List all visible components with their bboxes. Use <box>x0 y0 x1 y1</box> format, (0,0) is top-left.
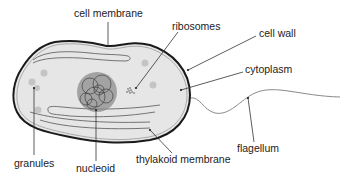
granule <box>41 70 48 77</box>
granule <box>142 60 149 67</box>
label-cytoplasm: cytoplasm <box>245 63 293 75</box>
label-nucleoid: nucleoid <box>76 162 115 174</box>
flagellum-shape <box>190 90 340 114</box>
label-thylakoid-membrane: thylakoid membrane <box>136 153 231 165</box>
label-granules: granules <box>14 157 54 169</box>
granule <box>34 85 40 91</box>
label-cell-wall: cell wall <box>259 27 296 39</box>
granule <box>35 107 42 114</box>
granule <box>29 79 36 86</box>
leader-cytoplasm <box>181 72 243 90</box>
prokaryotic-cell-diagram: cell membrane ribosomes cell wall cytopl… <box>0 0 351 181</box>
label-cell-membrane: cell membrane <box>74 7 143 19</box>
label-flagellum: flagellum <box>237 142 279 154</box>
label-ribosomes: ribosomes <box>172 20 220 32</box>
nucleoid-shape <box>77 72 117 112</box>
granule <box>150 82 157 89</box>
leader-flagellum <box>248 98 254 142</box>
